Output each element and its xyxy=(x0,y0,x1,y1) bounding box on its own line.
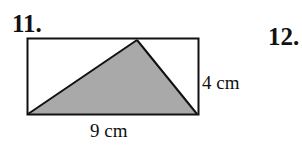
rectangle-triangle-figure xyxy=(0,0,302,151)
height-label: 4 cm xyxy=(202,73,239,92)
diagram-canvas: 11. 12. 4 cm 9 cm xyxy=(0,0,302,151)
shaded-triangle xyxy=(28,40,197,114)
width-label: 9 cm xyxy=(90,121,127,140)
